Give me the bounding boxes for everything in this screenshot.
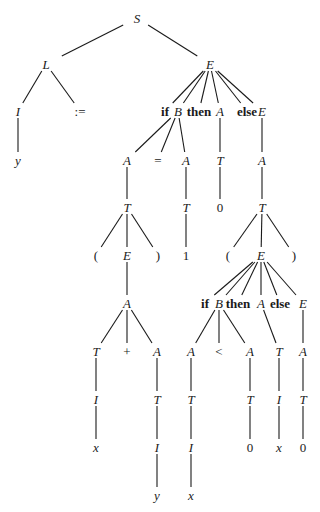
tree-node-nonterminal: A (245, 344, 254, 359)
tree-node-nonterminal: A (152, 344, 161, 359)
tree-node-nonterminal: E (298, 296, 307, 311)
tree-node-terminal: = (154, 153, 161, 168)
tree-node-terminal: ( (94, 248, 98, 263)
tree-node-nonterminal: A (215, 104, 224, 119)
tree-edge (62, 25, 123, 56)
tree-edge (264, 310, 276, 343)
tree-node-terminal: < (215, 344, 222, 359)
tree-edge (214, 262, 253, 295)
tree-node-terminal: 0 (247, 440, 254, 455)
tree-node-nonterminal: A (186, 344, 195, 359)
tree-node-terminal: ) (292, 248, 296, 263)
tree-node-nonterminal: A (257, 153, 266, 168)
tree-node-terminal: 1 (183, 248, 190, 263)
tree-node-nonterminal: I (188, 440, 194, 455)
tree-node-keyword: then (187, 104, 212, 119)
tree-node-nonterminal: T (153, 392, 161, 407)
tree-node-nonterminal: A (122, 153, 131, 168)
tree-node-nonterminal: B (215, 296, 223, 311)
tree-node-keyword: if (201, 296, 210, 311)
tree-node-nonterminal: E (257, 104, 266, 119)
tree-node-nonterminal: T (92, 344, 100, 359)
tree-node-nonterminal: y (13, 153, 21, 168)
tree-node-nonterminal: T (258, 200, 266, 215)
tree-node-nonterminal: I (93, 392, 99, 407)
tree-node-nonterminal: x (275, 440, 282, 455)
tree-node-nonterminal: B (174, 104, 182, 119)
tree-edge (135, 118, 170, 152)
tree-edge (264, 262, 277, 295)
tree-node-terminal: 0 (300, 440, 307, 455)
tree-edge (226, 262, 255, 295)
tree-node-terminal: + (123, 344, 130, 359)
tree-node-nonterminal: x (92, 440, 99, 455)
tree-node-nonterminal: E (205, 57, 214, 72)
parse-tree-diagram: SLEI:=yifBthenAelseEA=ATATT0T(E)1(E)AifB… (0, 0, 320, 512)
tree-node-nonterminal: T (123, 200, 131, 215)
tree-edge (173, 71, 204, 103)
tree-edge (23, 71, 42, 103)
tree-edge (179, 118, 185, 152)
tree-edge (131, 310, 152, 343)
tree-edge (218, 71, 253, 103)
tree-edge (242, 262, 258, 295)
tree-node-nonterminal: T (275, 344, 283, 359)
tree-node-nonterminal: T (299, 392, 307, 407)
tree-edge (212, 71, 219, 103)
tree-node-nonterminal: I (154, 440, 160, 455)
tree-node-nonterminal: E (122, 248, 131, 263)
tree-node-terminal: ( (226, 248, 230, 263)
tree-edge (224, 310, 245, 343)
tree-edge (132, 214, 153, 247)
tree-node-nonterminal: A (298, 344, 307, 359)
tree-edge (234, 214, 257, 247)
tree-edge (261, 214, 262, 247)
tree-edge (196, 310, 215, 343)
tree-node-nonterminal: y (152, 488, 160, 503)
tree-edge (267, 262, 296, 295)
tree-edge (148, 25, 197, 56)
tree-node-nonterminal: L (41, 57, 49, 72)
tree-node-nonterminal: T (182, 200, 190, 215)
tree-node-nonterminal: x (187, 488, 194, 503)
tree-edge (51, 71, 74, 103)
tree-node-nonterminal: E (256, 248, 265, 263)
tree-node-keyword: else (237, 104, 257, 119)
tree-node-nonterminal: T (216, 153, 224, 168)
tree-edge (267, 214, 289, 247)
tree-node-keyword: if (161, 104, 170, 119)
tree-node-keyword: then (226, 296, 251, 311)
tree-edge (216, 71, 241, 103)
tree-edge (101, 310, 122, 343)
tree-node-nonterminal: S (134, 11, 141, 26)
tree-node-nonterminal: I (276, 392, 282, 407)
tree-node-nonterminal: A (256, 296, 265, 311)
tree-node-terminal: ) (156, 248, 160, 263)
tree-node-nonterminal: T (246, 392, 254, 407)
tree-nodes: SLEI:=yifBthenAelseEA=ATATT0T(E)1(E)AifB… (13, 11, 307, 503)
tree-edge (161, 118, 175, 152)
tree-edge (101, 214, 122, 247)
tree-node-nonterminal: A (122, 296, 131, 311)
tree-node-terminal: 0 (217, 200, 224, 215)
tree-node-nonterminal: A (181, 153, 190, 168)
tree-node-nonterminal: T (187, 392, 195, 407)
tree-node-nonterminal: I (15, 104, 21, 119)
tree-node-keyword: else (270, 296, 290, 311)
tree-node-terminal: := (75, 104, 86, 119)
